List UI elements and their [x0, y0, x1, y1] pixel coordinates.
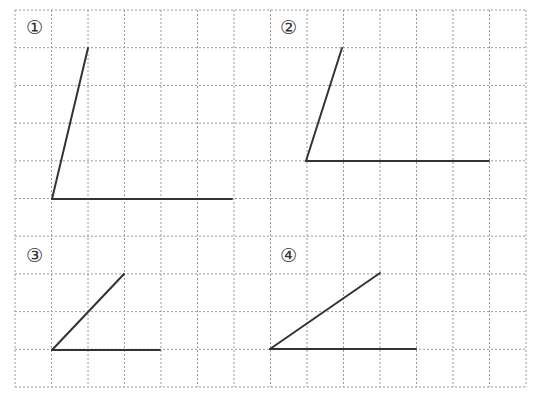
ray-slanted	[52, 48, 88, 199]
figure-label-4: ④	[280, 246, 297, 265]
figure-label-2: ②	[280, 18, 297, 37]
angle-figure-2	[306, 48, 489, 161]
angle-grid-diagram	[0, 0, 539, 401]
figure-label-1: ①	[26, 18, 43, 37]
ray-slanted	[270, 273, 380, 349]
ray-slanted	[306, 48, 342, 161]
figure-label-3: ③	[26, 246, 43, 265]
